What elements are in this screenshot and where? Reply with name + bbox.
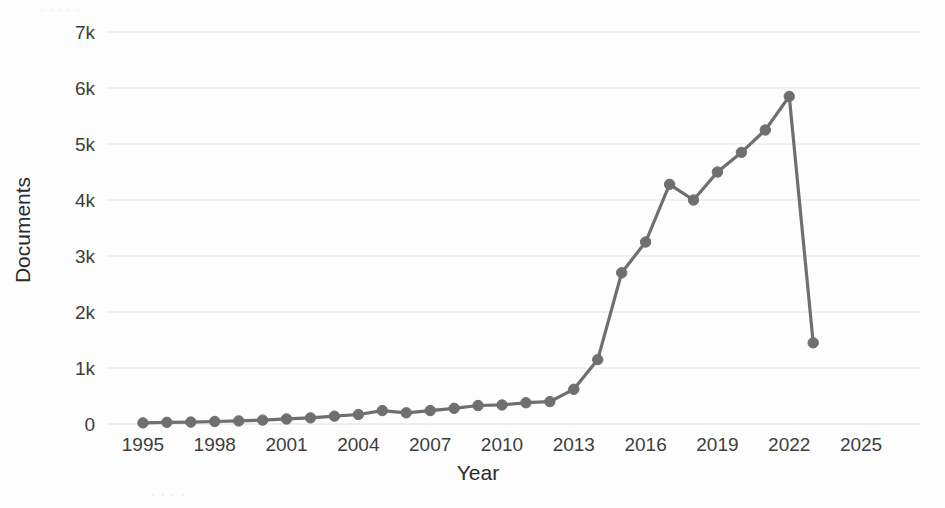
y-axis-tick-label: 2k: [75, 302, 96, 323]
x-axis-tick-labels: 1995199820012004200720102013201620192022…: [122, 434, 882, 455]
x-axis-tick-label: 2007: [409, 434, 451, 455]
data-point-marker: [736, 147, 746, 157]
chart-figure: · · · · · · · · · 01k2k3k4k5k6k7k 199519…: [0, 0, 945, 508]
x-axis-title: Year: [457, 461, 499, 484]
data-point-marker: [616, 268, 626, 278]
data-point-marker: [640, 237, 650, 247]
data-point-marker: [353, 409, 363, 419]
y-axis-tick-labels: 01k2k3k4k5k6k7k: [75, 22, 96, 435]
data-point-marker: [593, 354, 603, 364]
data-point-marker: [329, 411, 339, 421]
y-axis-tick-label: 1k: [75, 358, 96, 379]
y-axis-tick-label: 4k: [75, 190, 96, 211]
data-point-marker: [401, 408, 411, 418]
data-point-marker: [521, 398, 531, 408]
data-point-marker: [138, 418, 148, 428]
y-axis-title: Documents: [11, 177, 34, 283]
data-point-marker: [210, 416, 220, 426]
x-axis-tick-label: 2010: [481, 434, 523, 455]
data-point-marker: [281, 414, 291, 424]
data-point-marker: [162, 417, 172, 427]
data-point-marker: [712, 167, 722, 177]
data-point-marker: [497, 400, 507, 410]
data-point-marker: [425, 405, 435, 415]
data-point-marker: [569, 384, 579, 394]
x-axis-tick-label: 2022: [768, 434, 810, 455]
data-point-marker: [760, 125, 770, 135]
data-point-marker: [449, 403, 459, 413]
data-point-marker: [688, 195, 698, 205]
data-point-marker: [664, 179, 674, 189]
y-axis-tick-label: 6k: [75, 78, 96, 99]
gridlines-group: [107, 32, 920, 424]
x-axis-tick-label: 1998: [194, 434, 236, 455]
data-point-marker: [808, 338, 818, 348]
data-point-marker: [784, 91, 794, 101]
x-axis-tick-label: 2004: [337, 434, 380, 455]
data-point-marker: [473, 400, 483, 410]
data-point-marker: [305, 413, 315, 423]
data-point-marker: [233, 416, 243, 426]
y-axis-tick-label: 5k: [75, 134, 96, 155]
data-point-marker: [186, 417, 196, 427]
y-axis-tick-label: 3k: [75, 246, 96, 267]
data-point-marker: [377, 405, 387, 415]
documents-series-line: [143, 96, 813, 422]
x-axis-tick-label: 1995: [122, 434, 164, 455]
data-point-marker: [257, 415, 267, 425]
x-axis-tick-label: 2013: [553, 434, 595, 455]
y-axis-tick-label: 7k: [75, 22, 96, 43]
x-axis-tick-label: 2025: [840, 434, 882, 455]
documents-series-markers: [138, 91, 819, 428]
x-axis-tick-label: 2019: [696, 434, 738, 455]
data-point-marker: [545, 396, 555, 406]
x-axis-tick-label: 2001: [265, 434, 307, 455]
x-axis-tick-label: 2016: [624, 434, 666, 455]
line-chart-plot: 01k2k3k4k5k6k7k 199519982001200420072010…: [0, 0, 945, 508]
y-axis-tick-label: 0: [84, 414, 95, 435]
